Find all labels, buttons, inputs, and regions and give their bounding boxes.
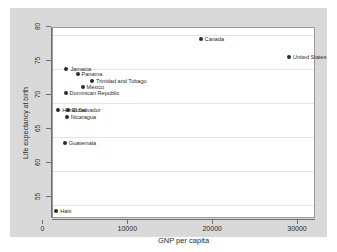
data-point[interactable]	[54, 209, 58, 213]
x-axis-tick-mark	[42, 220, 43, 224]
data-point[interactable]	[64, 67, 68, 71]
y-axis-tick-label: 65	[32, 123, 44, 134]
graph-region: Life expectancy at birth 556065707580 Ca…	[10, 8, 327, 237]
y-axis-tick-mark	[46, 128, 51, 129]
data-point[interactable]	[64, 91, 68, 95]
plot-area: CanadaUnited StatesJamaicaPanamaTrinidad…	[52, 27, 315, 218]
y-axis-tick-mark	[46, 196, 51, 197]
data-point-label: Trinidad and Tobago	[96, 78, 147, 84]
x-axis-line	[52, 219, 315, 220]
x-axis-tick: 10000	[127, 220, 128, 225]
x-axis-tick: 30000	[297, 220, 298, 225]
data-point[interactable]	[65, 115, 69, 119]
data-point-label: Dominican Republic	[70, 90, 120, 96]
data-point[interactable]	[199, 37, 203, 41]
data-point[interactable]	[90, 79, 94, 83]
y-axis-tick-label: 55	[32, 191, 44, 202]
y-axis-tick: 80	[46, 26, 51, 27]
y-axis-tick-mark	[46, 162, 51, 163]
y-axis-tick-label: 60	[32, 157, 44, 168]
y-axis-tick-label: 70	[32, 89, 44, 100]
data-point-label: United States	[293, 54, 327, 60]
x-axis-tick-label: 20000	[190, 225, 235, 232]
x-axis-tick: 0	[42, 220, 43, 225]
screenshot-root: Life expectancy at birth 556065707580 Ca…	[0, 0, 337, 252]
data-point-label: Haiti	[60, 208, 71, 214]
y-axis-tick: 75	[46, 60, 51, 61]
x-axis-tick-label: 0	[20, 225, 65, 232]
x-axis-tick-mark	[127, 220, 128, 224]
y-axis-title: Life expectancy at birth	[19, 27, 30, 218]
x-axis-title: GNP per capita	[52, 236, 315, 245]
x-axis-tick-label: 30000	[275, 225, 320, 232]
data-point[interactable]	[76, 72, 80, 76]
data-point[interactable]	[63, 141, 67, 145]
y-axis-tick: 60	[46, 162, 51, 163]
x-axis-tick-mark	[297, 220, 298, 224]
data-point-label: El Salvador	[72, 107, 101, 113]
data-point-label: Nicaragua	[71, 114, 97, 120]
y-axis-tick-mark	[46, 94, 51, 95]
y-axis-title-text: Life expectancy at birth	[21, 87, 28, 159]
data-point-label: Canada	[205, 36, 225, 42]
data-points-layer: CanadaUnited StatesJamaicaPanamaTrinidad…	[53, 28, 314, 217]
y-axis-tick-mark	[46, 60, 51, 61]
y-axis-tick: 55	[46, 196, 51, 197]
data-point-label: Panama	[82, 71, 103, 77]
y-axis-tick: 70	[46, 94, 51, 95]
y-axis-tick: 65	[46, 128, 51, 129]
y-axis-tick-mark	[46, 26, 51, 27]
data-point[interactable]	[56, 108, 60, 112]
data-point[interactable]	[287, 55, 291, 59]
x-axis-tick-label: 10000	[105, 225, 150, 232]
y-axis-tick-label: 80	[32, 21, 44, 32]
y-axis-tick-label: 75	[32, 55, 44, 66]
data-point-label: Mexico	[87, 84, 105, 90]
x-axis-tick: 20000	[212, 220, 213, 225]
data-point[interactable]	[81, 85, 85, 89]
x-axis-tick-mark	[212, 220, 213, 224]
data-point-label: Guatemala	[69, 140, 96, 146]
data-point[interactable]	[66, 108, 70, 112]
